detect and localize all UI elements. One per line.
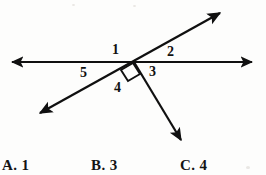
angle-label-2: 2	[167, 45, 174, 59]
descending-ray	[134, 62, 181, 140]
answer-choice-b[interactable]: B. 3	[91, 158, 118, 173]
diagram-page: 1 2 3 4 5 A. 1 B. 3 C. 4	[0, 0, 266, 175]
answer-choice-a[interactable]: A. 1	[2, 158, 29, 173]
geometry-figure	[0, 0, 266, 175]
angle-label-3: 3	[149, 65, 156, 79]
answer-choice-c[interactable]: C. 4	[180, 158, 207, 173]
angle-label-4: 4	[114, 81, 121, 95]
angle-label-1: 1	[112, 43, 119, 57]
angle-label-5: 5	[80, 66, 87, 80]
